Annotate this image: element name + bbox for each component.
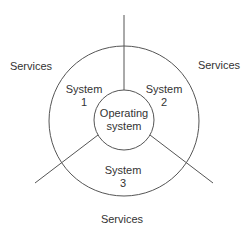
services-label-bottom: Services [101, 213, 143, 226]
operating-system-label: Operating system [100, 107, 148, 133]
system-1-number: 1 [66, 96, 103, 109]
system-3-name: System [105, 164, 142, 177]
services-label-right: Services [198, 59, 240, 72]
operating-system-line2: system [100, 120, 148, 133]
system-1-label: System 1 [66, 83, 103, 109]
system-1-name: System [66, 83, 103, 96]
operating-system-line1: Operating [100, 107, 148, 120]
system-2-number: 2 [146, 96, 183, 109]
system-3-label: System 3 [105, 164, 142, 190]
divider-line-lower-left [35, 135, 98, 183]
services-label-left: Services [10, 60, 52, 73]
divider-line-lower-right [150, 135, 213, 183]
system-3-number: 3 [105, 177, 142, 190]
system-2-label: System 2 [146, 83, 183, 109]
system-2-name: System [146, 83, 183, 96]
